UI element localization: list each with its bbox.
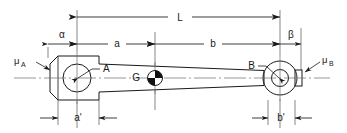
point-label-B: B — [248, 60, 255, 71]
extension-lines — [48, 10, 301, 128]
diagram-canvas: L α a b β a' b' — [0, 0, 347, 133]
rod-chamfer-bottom — [50, 92, 58, 100]
mass-label-mu-A-subscript: A — [21, 61, 26, 68]
centerlines — [14, 52, 330, 104]
rod-chamfer-top — [50, 56, 58, 64]
dimension-label-L: L — [177, 12, 183, 23]
dimension-row-bottom: a' b' — [40, 112, 312, 123]
mass-labels: μ A μ B — [14, 54, 334, 72]
mass-label-mu-A: μ — [14, 55, 19, 66]
leader-line-mu-B — [305, 62, 320, 72]
leader-line-mu-A — [36, 62, 50, 70]
point-label-G: G — [132, 72, 140, 83]
mass-label-mu-B-subscript: B — [329, 60, 334, 67]
center-of-gravity-marker: G — [132, 71, 162, 86]
dimension-label-aprime: a' — [74, 112, 82, 123]
connecting-rod-diagram: L α a b β a' b' — [0, 0, 347, 133]
dimension-label-alpha: α — [59, 29, 65, 40]
dimension-label-beta: β — [288, 29, 294, 40]
point-leaders: A B — [78, 60, 279, 78]
dimension-L: L — [77, 12, 280, 23]
leader-line-B — [266, 66, 279, 78]
dimension-label-b: b — [210, 38, 216, 49]
mass-label-mu-B: μ — [322, 54, 327, 65]
point-label-A: A — [103, 63, 110, 74]
dimension-label-a: a — [114, 38, 120, 49]
dimension-row-middle: α a b β — [48, 29, 301, 49]
dimension-label-bprime: b' — [277, 112, 285, 123]
